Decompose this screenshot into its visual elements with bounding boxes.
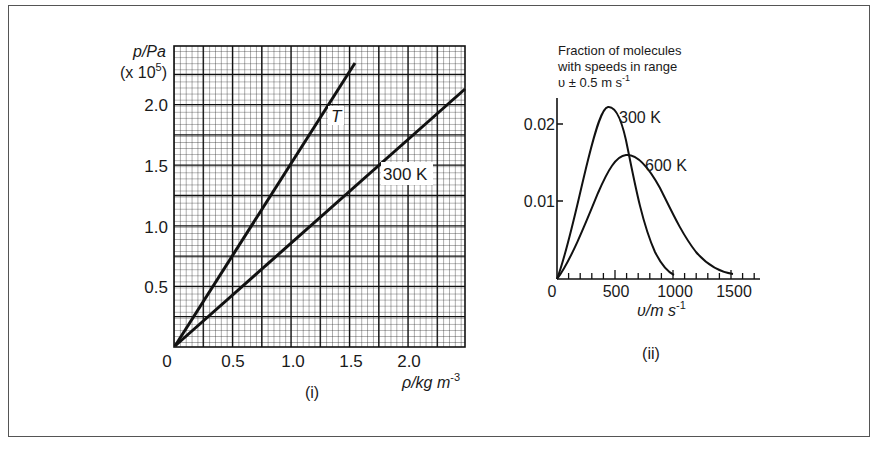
label-T: T <box>331 107 343 126</box>
panel-ii-title-line2: with speeds in range <box>557 59 677 74</box>
graph-paper <box>174 46 465 347</box>
svg-text:0.5: 0.5 <box>144 278 168 297</box>
svg-text:0: 0 <box>162 352 171 371</box>
caption-ii: (ii) <box>642 345 660 362</box>
label-600K-curve: 600 K <box>645 157 687 174</box>
label-300K-curve: 300 K <box>619 109 661 126</box>
svg-text:1.5: 1.5 <box>339 352 363 371</box>
svg-text:0: 0 <box>548 283 557 300</box>
y-axis-scale: (x 105) <box>120 61 167 81</box>
svg-text:500: 500 <box>603 283 630 300</box>
y-tick-labels-ii: 0.02 0.01 <box>524 116 555 210</box>
y-axis-label: p/Pa <box>132 43 166 60</box>
svg-text:1000: 1000 <box>657 283 693 300</box>
x-axis-label-ii: υ/m s-1 <box>637 299 686 319</box>
svg-text:0.5: 0.5 <box>221 352 245 371</box>
x-tick-labels: 0 0.5 1.0 1.5 2.0 <box>162 352 421 371</box>
figure-canvas: T 300 K p/Pa (x 105) 2.0 1.5 1.0 0.5 0 0… <box>0 0 877 449</box>
svg-text:1500: 1500 <box>716 283 752 300</box>
panel-ii-title-line1: Fraction of molecules <box>558 43 682 58</box>
svg-text:1.0: 1.0 <box>281 352 305 371</box>
y-tick-labels: 2.0 1.5 1.0 0.5 <box>144 96 168 297</box>
svg-text:2.0: 2.0 <box>144 96 168 115</box>
svg-text:1.0: 1.0 <box>144 218 168 237</box>
svg-text:1.5: 1.5 <box>144 157 168 176</box>
caption-i: (i) <box>305 384 319 401</box>
svg-text:0.01: 0.01 <box>524 193 555 210</box>
x-axis-label: ρ/kg m-3 <box>401 371 460 391</box>
x-tick-labels-ii: 0 500 1000 1500 <box>548 283 752 300</box>
curve-300K <box>557 107 674 279</box>
panel-i-chart: T 300 K p/Pa (x 105) 2.0 1.5 1.0 0.5 0 0… <box>120 43 465 401</box>
x-ticks-ii <box>569 270 755 279</box>
panel-ii-chart: Fraction of molecules with speeds in ran… <box>524 43 760 362</box>
svg-text:0.02: 0.02 <box>524 116 555 133</box>
label-300K: 300 K <box>383 165 428 184</box>
panel-ii-title-line3: υ ± 0.5 m s-1 <box>558 73 630 90</box>
svg-text:2.0: 2.0 <box>397 352 421 371</box>
